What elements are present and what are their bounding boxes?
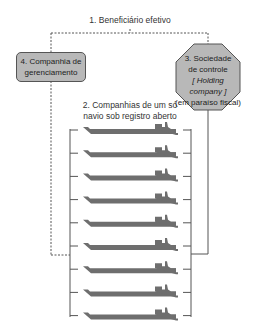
holding-line-1: 3. Sociedade [175, 53, 241, 64]
holding-line-3: [ Holding company ] [175, 75, 241, 97]
ship-icon [70, 168, 191, 181]
holding-line-2: de controle [175, 64, 241, 75]
ship-icon [70, 261, 191, 274]
ssc-line-2: navio sob registro aberto [60, 111, 200, 122]
ship-icon [70, 238, 191, 251]
single-ship-companies-label: 2. Companhias de um só navio sob registr… [60, 100, 200, 122]
management-company-box: 4. Companhia de gerenciamento [16, 52, 86, 82]
management-company-label-1: 4. Companhia de [21, 56, 82, 67]
ship-icon [70, 308, 191, 321]
ship-icon [70, 284, 191, 297]
management-company-label-2: gerenciamento [21, 67, 82, 78]
ship-icon [70, 145, 191, 158]
ship-icon [70, 122, 191, 135]
ship-icon [70, 215, 191, 228]
ssc-line-1: 2. Companhias de um só [60, 100, 200, 111]
ship-icon [70, 192, 191, 205]
beneficiary-label: 1. Beneficiário efetivo [60, 15, 200, 26]
